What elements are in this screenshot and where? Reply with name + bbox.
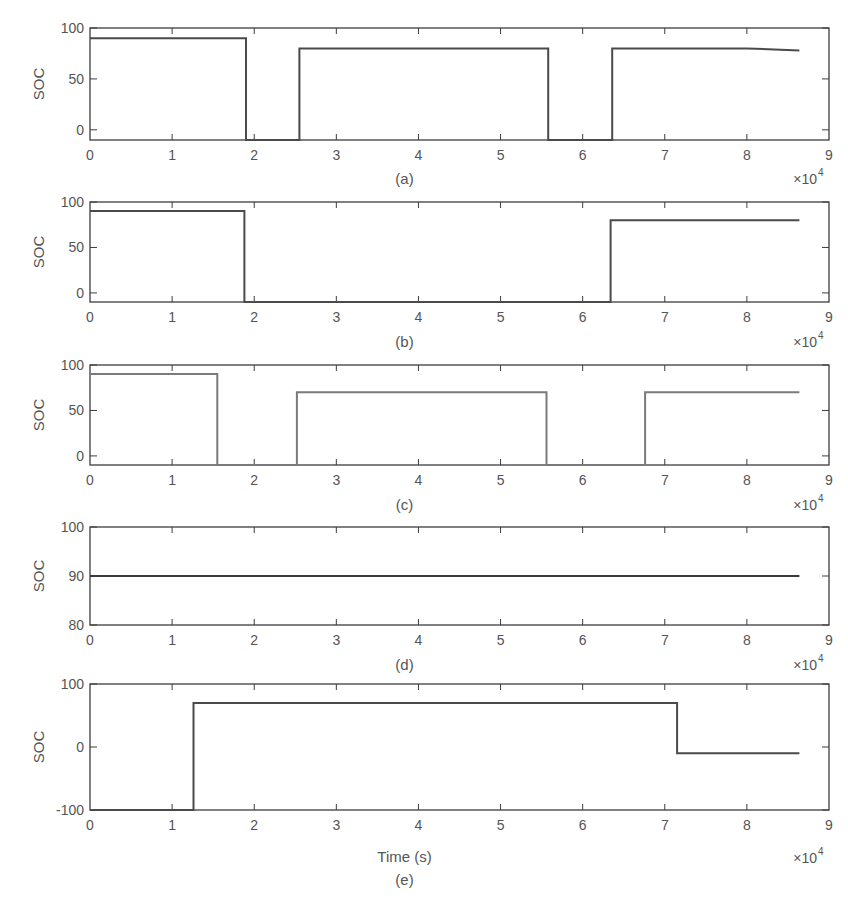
subplot-e: 0123456789-1000100SOC×104Time (s)(e) (30, 676, 833, 888)
y-tick-label: 100 (61, 357, 85, 373)
x-tick-label: 8 (743, 817, 751, 833)
x-tick-label: 8 (743, 147, 751, 163)
x-tick-label: 6 (579, 817, 587, 833)
y-axis-label: SOC (30, 399, 47, 432)
x-multiplier-exponent: 4 (818, 846, 824, 857)
y-tick-label: 90 (68, 568, 84, 584)
y-tick-label: 0 (76, 448, 84, 464)
subplot-caption: (b) (395, 333, 413, 350)
x-tick-label: 5 (497, 632, 505, 648)
subplot-a: 0123456789050100SOC×104(a) (30, 20, 833, 187)
x-tick-label: 7 (661, 309, 669, 325)
subplot-caption: (d) (395, 656, 413, 673)
x-tick-label: 9 (825, 472, 833, 488)
x-multiplier: ×10 (793, 171, 817, 187)
x-multiplier: ×10 (793, 657, 817, 673)
x-tick-label: 1 (168, 632, 176, 648)
x-tick-label: 5 (497, 309, 505, 325)
x-tick-label: 0 (86, 147, 94, 163)
x-tick-label: 0 (86, 309, 94, 325)
x-tick-label: 9 (825, 632, 833, 648)
x-tick-label: 9 (825, 147, 833, 163)
axes-box (90, 365, 829, 465)
y-axis-label: SOC (30, 731, 47, 764)
x-multiplier-exponent: 4 (818, 653, 824, 664)
x-tick-label: 6 (579, 147, 587, 163)
axes-box (90, 202, 829, 302)
x-tick-label: 7 (661, 632, 669, 648)
x-tick-label: 1 (168, 309, 176, 325)
x-tick-label: 6 (579, 632, 587, 648)
x-tick-label: 4 (415, 309, 423, 325)
soc-series-line (90, 211, 799, 302)
y-tick-label: 50 (68, 71, 84, 87)
x-tick-label: 1 (168, 472, 176, 488)
x-multiplier: ×10 (793, 850, 817, 866)
subplot-d: 01234567898090100SOC×104(d) (30, 519, 833, 673)
soc-figure: 0123456789050100SOC×104(a)01234567890501… (0, 0, 848, 910)
x-tick-label: 4 (415, 817, 423, 833)
x-tick-label: 7 (661, 817, 669, 833)
x-tick-label: 4 (415, 472, 423, 488)
y-tick-label: 0 (76, 122, 84, 138)
x-tick-label: 4 (415, 632, 423, 648)
subplot-b: 0123456789050100SOC×104(b) (30, 194, 833, 350)
x-tick-label: 7 (661, 472, 669, 488)
subplot-caption: (a) (395, 170, 413, 187)
x-tick-label: 0 (86, 817, 94, 833)
x-tick-label: 1 (168, 817, 176, 833)
x-tick-label: 9 (825, 817, 833, 833)
x-tick-label: 0 (86, 472, 94, 488)
x-multiplier-exponent: 4 (818, 167, 824, 178)
x-tick-label: 6 (579, 472, 587, 488)
y-tick-label: 0 (76, 285, 84, 301)
y-tick-label: -100 (56, 802, 84, 818)
y-tick-label: 50 (68, 402, 84, 418)
soc-series-line (90, 374, 799, 465)
soc-series-line (90, 703, 799, 810)
x-tick-label: 8 (743, 472, 751, 488)
y-tick-label: 100 (61, 20, 85, 36)
x-tick-label: 2 (250, 147, 258, 163)
subplot-caption: (c) (396, 496, 414, 513)
y-axis-label: SOC (30, 236, 47, 269)
x-tick-label: 9 (825, 309, 833, 325)
y-tick-label: 80 (68, 617, 84, 633)
y-tick-label: 100 (61, 676, 85, 692)
subplot-c: 0123456789050100SOC×104(c) (30, 357, 833, 513)
x-tick-label: 8 (743, 632, 751, 648)
x-tick-label: 4 (415, 147, 423, 163)
subplot-caption: (e) (395, 871, 413, 888)
x-tick-label: 3 (332, 817, 340, 833)
x-tick-label: 2 (250, 632, 258, 648)
axes-box (90, 28, 829, 140)
y-tick-label: 100 (61, 194, 85, 210)
x-tick-label: 2 (250, 309, 258, 325)
y-tick-label: 50 (68, 239, 84, 255)
y-tick-label: 100 (61, 519, 85, 535)
y-axis-label: SOC (30, 68, 47, 101)
x-axis-label: Time (s) (377, 848, 431, 865)
x-tick-label: 5 (497, 147, 505, 163)
x-multiplier-exponent: 4 (818, 330, 824, 341)
x-multiplier-exponent: 4 (818, 493, 824, 504)
x-tick-label: 6 (579, 309, 587, 325)
soc-series-line (90, 38, 799, 140)
y-tick-label: 0 (76, 739, 84, 755)
x-tick-label: 2 (250, 472, 258, 488)
x-tick-label: 5 (497, 472, 505, 488)
x-multiplier: ×10 (793, 497, 817, 513)
x-tick-label: 7 (661, 147, 669, 163)
x-multiplier: ×10 (793, 334, 817, 350)
y-axis-label: SOC (30, 560, 47, 593)
x-tick-label: 0 (86, 632, 94, 648)
x-tick-label: 3 (332, 147, 340, 163)
x-tick-label: 3 (332, 472, 340, 488)
x-tick-label: 3 (332, 632, 340, 648)
x-tick-label: 1 (168, 147, 176, 163)
x-tick-label: 8 (743, 309, 751, 325)
x-tick-label: 2 (250, 817, 258, 833)
x-tick-label: 5 (497, 817, 505, 833)
x-tick-label: 3 (332, 309, 340, 325)
